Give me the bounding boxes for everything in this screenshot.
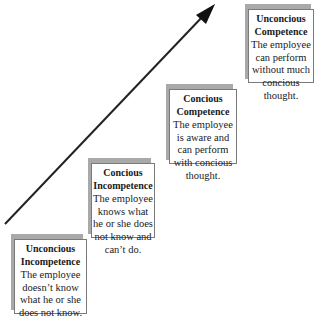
- stage-description-line: thought.: [170, 170, 236, 183]
- card-box: Concious Competence The employee is awar…: [169, 89, 237, 164]
- card-box: Unconcious Incompetence The employee doe…: [14, 239, 87, 314]
- stage-title-line: Concious: [170, 93, 236, 106]
- card-box: Unconcious Competence The employee can p…: [248, 9, 314, 83]
- stage-description-line: not know and: [92, 231, 154, 244]
- stage-description-line: can perform: [249, 52, 313, 65]
- stage-description-line: can perform: [170, 144, 236, 157]
- stage-title: Unconcious Incompetence: [15, 243, 86, 268]
- stage-title-line: Competence: [170, 106, 236, 119]
- stage-description: The employee doesn’t know what he or she…: [15, 269, 86, 319]
- stage-description-line: without much: [249, 64, 313, 77]
- stage-title-line: Incompetence: [15, 256, 86, 269]
- stage-description-line: The employee: [15, 269, 86, 282]
- stage-title-line: Incompetence: [92, 180, 154, 193]
- stage-title-line: Unconcious: [15, 243, 86, 256]
- stage-description-line: The employee: [249, 39, 313, 52]
- stage-description-line: thought.: [249, 90, 313, 103]
- stage-title: Unconcious Competence: [249, 13, 313, 38]
- stage-title-line: Competence: [249, 26, 313, 39]
- stage-description-line: The employee: [92, 193, 154, 206]
- stage-title-line: Unconcious: [249, 13, 313, 26]
- stage-description-line: The employee: [170, 119, 236, 132]
- card-box: Concious Incompetence The employee knows…: [91, 163, 155, 238]
- stage-description-line: he or she does: [92, 218, 154, 231]
- stage-title: Concious Incompetence: [92, 167, 154, 192]
- stage-title-line: Concious: [92, 167, 154, 180]
- stage-description-line: concious: [249, 77, 313, 90]
- stage-description-line: doesn’t know: [15, 282, 86, 295]
- stage-description: The employee is aware and can perform wi…: [170, 119, 236, 182]
- stage-title: Concious Competence: [170, 93, 236, 118]
- stage-description: The employee knows what he or she does n…: [92, 193, 154, 256]
- stage-description-line: knows what: [92, 206, 154, 219]
- stage-description-line: is aware and: [170, 132, 236, 145]
- stage-description-line: can’t do.: [92, 244, 154, 257]
- stage-description-line: with concious: [170, 157, 236, 170]
- stage-description: The employee can perform without much co…: [249, 39, 313, 102]
- stage-description-line: what he or she: [15, 294, 86, 307]
- competence-stages-diagram: Unconcious Incompetence The employee doe…: [0, 0, 318, 319]
- stage-description-line: does not know.: [15, 307, 86, 319]
